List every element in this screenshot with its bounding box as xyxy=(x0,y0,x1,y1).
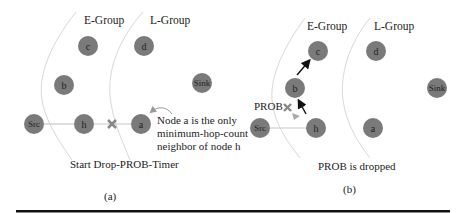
node-a: a xyxy=(363,118,383,138)
bottom-rule xyxy=(16,210,450,213)
prob-arrow-icon xyxy=(292,113,300,120)
svg-text:c: c xyxy=(86,41,91,52)
annotation-line-1: Node a is the only xyxy=(157,114,238,126)
l-group-boundary xyxy=(110,12,143,160)
e-group-label: E-Group xyxy=(84,14,124,27)
svg-text:Src: Src xyxy=(254,123,266,133)
svg-text:b: b xyxy=(293,83,298,94)
node-a: a xyxy=(131,114,151,134)
svg-text:d: d xyxy=(142,41,147,52)
node-d: d xyxy=(134,36,154,56)
node-c: c xyxy=(308,41,328,61)
l-group-boundary xyxy=(342,18,370,158)
l-group-label: L-Group xyxy=(374,20,414,33)
svg-text:d: d xyxy=(374,46,379,57)
arrow-b-to-c xyxy=(297,61,309,75)
annotation-line-3: neighbor of node h xyxy=(157,140,241,152)
node-d: d xyxy=(366,41,386,61)
e-group-label: E-Group xyxy=(307,20,347,33)
diagram-canvas: E-Group L-Group c d b Sink Src h a Node … xyxy=(0,0,467,213)
svg-text:b: b xyxy=(62,80,67,91)
arrow-h-to-b xyxy=(299,101,306,114)
l-group-label: L-Group xyxy=(150,14,190,27)
status-text-a: Start Drop-PROB-Timer xyxy=(70,158,179,170)
svg-text:Sink: Sink xyxy=(194,78,211,88)
panel-a: E-Group L-Group c d b Sink Src h a Node … xyxy=(24,12,248,203)
svg-text:h: h xyxy=(314,123,319,134)
node-b: b xyxy=(285,78,305,98)
svg-text:h: h xyxy=(82,119,87,130)
node-sink: Sink xyxy=(427,78,447,98)
node-sink: Sink xyxy=(192,73,212,93)
svg-text:Sink: Sink xyxy=(429,83,446,93)
caption-b: (b) xyxy=(343,183,356,196)
node-h: h xyxy=(74,114,94,134)
node-h: h xyxy=(306,118,326,138)
node-src: Src xyxy=(24,114,44,134)
node-b: b xyxy=(54,75,74,95)
node-src: Src xyxy=(250,118,270,138)
caption-a: (a) xyxy=(104,190,117,203)
node-c: c xyxy=(78,36,98,56)
svg-text:a: a xyxy=(371,123,376,134)
drop-cross-icon xyxy=(284,104,291,111)
status-text-b: PROB is dropped xyxy=(318,160,396,172)
svg-text:a: a xyxy=(139,119,144,130)
annotation-line-2: minimum-hop-count xyxy=(157,127,248,139)
prob-label: PROB xyxy=(254,100,283,112)
svg-text:Src: Src xyxy=(28,119,40,129)
svg-text:c: c xyxy=(316,46,321,57)
panel-b: E-Group L-Group PROB c d b Sink Src h a … xyxy=(250,18,447,196)
